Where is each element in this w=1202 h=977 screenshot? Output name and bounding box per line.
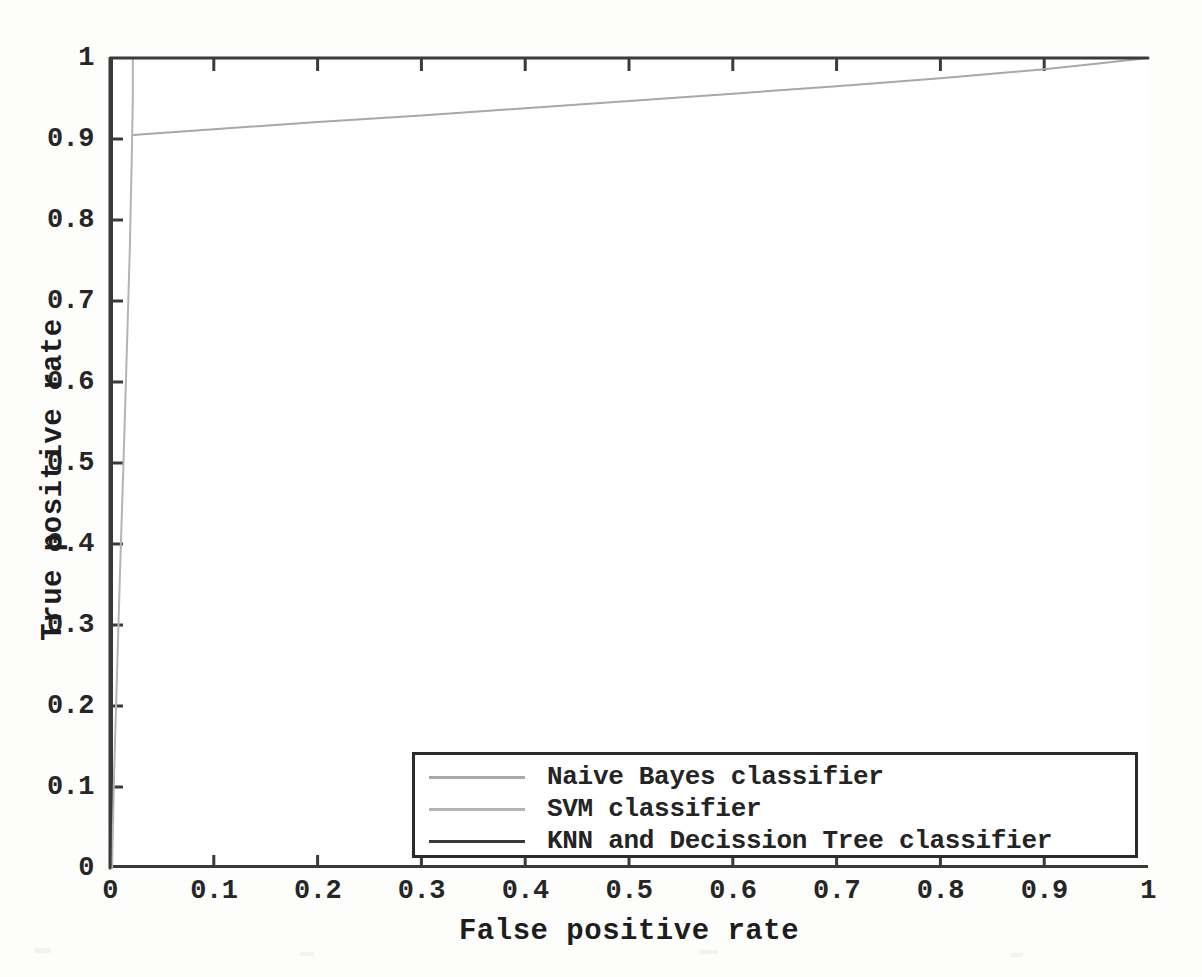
x-tick-label: 0.5 <box>605 876 652 906</box>
y-tick-label: 0 <box>78 853 94 883</box>
legend-item-naive-bayes[interactable]: Naive Bayes classifier <box>415 761 1135 793</box>
x-tick-label: 1 <box>1140 876 1156 906</box>
x-axis-title: False positive rate <box>110 915 1148 948</box>
x-tick-label: 0 <box>102 876 118 906</box>
x-tick-label: 0.1 <box>190 876 237 906</box>
x-tick-label: 0.2 <box>294 876 341 906</box>
legend-swatch-knn-decision-tree <box>429 840 525 843</box>
y-tick-label: 1 <box>78 43 94 73</box>
legend-box: Naive Bayes classifier SVM classifier KN… <box>412 752 1138 858</box>
scan-artifact <box>1010 953 1023 957</box>
y-tick-label: 0.9 <box>47 124 94 154</box>
legend-label-naive-bayes: Naive Bayes classifier <box>547 762 884 792</box>
roc-chart-figure: 00.10.20.30.40.50.60.70.80.91 00.10.20.3… <box>0 0 1202 977</box>
y-tick-label: 0.1 <box>47 772 94 802</box>
x-tick-label: 0.6 <box>709 876 756 906</box>
legend-item-svm[interactable]: SVM classifier <box>415 793 1135 825</box>
legend-item-knn-decision-tree[interactable]: KNN and Decission Tree classifier <box>415 825 1135 857</box>
x-tick-label: 0.9 <box>1021 876 1068 906</box>
y-axis-title: True positive rate <box>37 220 70 740</box>
plot-area <box>110 58 1148 868</box>
scan-artifact <box>700 950 718 954</box>
legend-swatch-naive-bayes <box>429 776 525 779</box>
x-tick-label: 0.7 <box>813 876 860 906</box>
legend-label-knn-decision-tree: KNN and Decission Tree classifier <box>547 826 1052 856</box>
legend-swatch-svm <box>429 808 525 811</box>
scan-artifact <box>300 952 314 956</box>
x-tick-label: 0.8 <box>917 876 964 906</box>
scan-artifact <box>35 948 51 953</box>
x-tick-label: 0.3 <box>398 876 445 906</box>
x-tick-label: 0.4 <box>502 876 549 906</box>
legend-label-svm: SVM classifier <box>547 794 761 824</box>
